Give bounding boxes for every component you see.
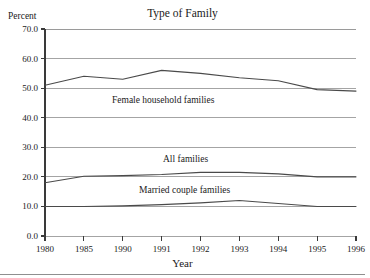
y-tick-label: 10.0: [4, 201, 38, 211]
y-tick-label: 0.0: [4, 231, 38, 241]
footer-divider: [0, 274, 365, 275]
y-tick-label: 50.0: [4, 83, 38, 93]
x-tick-label: 1992: [184, 244, 218, 254]
x-tick-label: 1993: [222, 244, 256, 254]
chart-title: Type of Family: [0, 8, 365, 20]
y-tick-label: 20.0: [4, 172, 38, 182]
series-label-female-household-families: Female household families: [112, 95, 214, 105]
y-tick-label: 40.0: [4, 113, 38, 123]
x-tick-label: 1996: [339, 244, 370, 254]
x-tick-label: 1994: [261, 244, 295, 254]
x-tick-label: 1995: [300, 244, 334, 254]
y-tick-label: 60.0: [4, 54, 38, 64]
x-axis-title: Year: [0, 258, 365, 269]
y-tick-label: 70.0: [4, 24, 38, 34]
x-tick-label: 1985: [67, 244, 101, 254]
series-label-all-families: All families: [163, 154, 208, 164]
x-tick-label: 1980: [28, 244, 62, 254]
x-tick-label: 1990: [106, 244, 140, 254]
y-tick-label: 30.0: [4, 142, 38, 152]
series-label-married-couple-families: Married couple families: [139, 185, 230, 195]
x-tick-label: 1991: [145, 244, 179, 254]
